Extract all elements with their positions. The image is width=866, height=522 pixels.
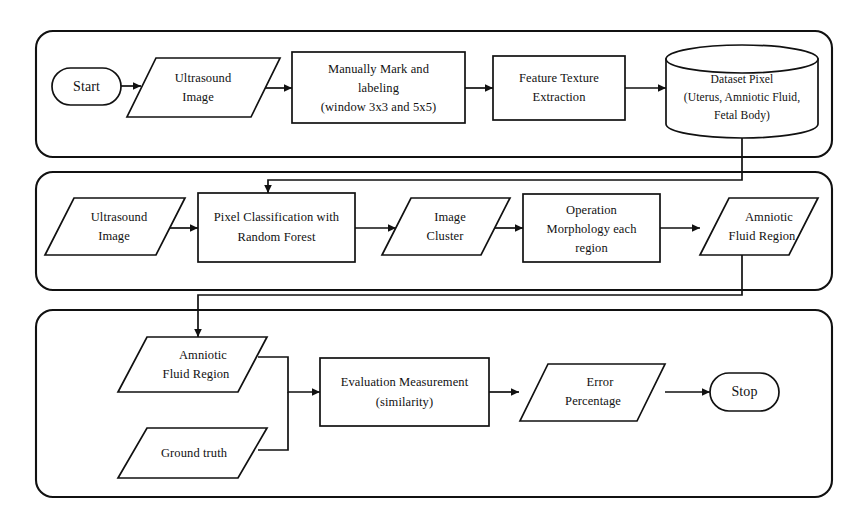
node-error-percentage[interactable]: Error Percentage (520, 364, 665, 421)
node-ground-truth-label: Ground truth (161, 446, 228, 460)
flowchart-canvas: Start Ultrasound Image Manually Mark and… (0, 0, 866, 522)
connector-ultrasound-1-to-manual-mark (264, 84, 292, 92)
connector-ground-truth-to-evaluation (258, 392, 288, 450)
connector-feature-texture-to-dataset-pixel (625, 84, 666, 92)
node-amniotic-fluid-region-2-label-line-2: Fluid Region (163, 367, 230, 381)
node-ultrasound-image-1-label-line-1: Ultrasound (175, 71, 232, 85)
node-amniotic-fluid-region-1-label-line-2: Fluid Region (729, 229, 796, 243)
node-image-cluster[interactable]: Image Cluster (382, 198, 510, 255)
node-amniotic-fluid-region-1-label-line-1: Amniotic (745, 210, 793, 224)
node-feature-texture-label-line-1: Feature Texture (519, 71, 599, 85)
flowchart-svg: Start Ultrasound Image Manually Mark and… (0, 0, 866, 522)
node-evaluation-measurement-label-line-1: Evaluation Measurement (341, 375, 469, 389)
connector-start-to-ultrasound-1 (121, 82, 141, 90)
connector-amniotic-2-to-evaluation (258, 357, 320, 396)
connector-morphology-to-amniotic-1 (660, 224, 700, 232)
node-error-percentage-label-line-2: Percentage (565, 394, 621, 408)
node-stop-label: Stop (731, 384, 757, 399)
connector-error-pct-to-stop (665, 388, 710, 396)
node-error-percentage-label-line-1: Error (587, 375, 615, 389)
node-operation-morphology[interactable]: Operation Morphology each region (523, 194, 660, 262)
node-evaluation-measurement[interactable]: Evaluation Measurement (similarity) (320, 358, 489, 426)
connector-amniotic-1-to-amniotic-2 (194, 255, 742, 337)
connector-manual-mark-to-feature-texture (465, 84, 493, 92)
node-amniotic-fluid-region-1[interactable]: Amniotic Fluid Region (700, 198, 818, 255)
node-start-label: Start (73, 79, 100, 94)
connector-evaluation-to-error-pct (489, 388, 519, 396)
connector-pixel-classify-to-image-cluster (355, 224, 396, 232)
node-image-cluster-label-line-1: Image (434, 210, 466, 224)
node-ultrasound-image-1-label-line-2: Image (182, 90, 214, 104)
node-pixel-classification-label-line-1: Pixel Classification with (214, 210, 340, 224)
phase-2-nodes: Ultrasound Image Pixel Classification wi… (45, 193, 818, 262)
node-manually-mark-label-line-3: (window 3x3 and 5x5) (321, 100, 437, 114)
node-stop[interactable]: Stop (710, 373, 779, 411)
node-feature-texture-label-line-2: Extraction (532, 90, 586, 104)
node-operation-morphology-label-line-2: Morphology each (546, 222, 637, 236)
node-amniotic-fluid-region-2[interactable]: Amniotic Fluid Region (118, 337, 267, 392)
node-ultrasound-image-2[interactable]: Ultrasound Image (45, 198, 185, 255)
node-ultrasound-image-2-label-line-1: Ultrasound (91, 210, 148, 224)
node-dataset-pixel-label-line-2: (Uterus, Amniotic Fluid, (684, 91, 800, 104)
node-feature-texture-extraction[interactable]: Feature Texture Extraction (493, 56, 625, 120)
connector-ultrasound-2-to-pixel-classify (170, 224, 198, 232)
node-start[interactable]: Start (52, 68, 121, 105)
node-operation-morphology-label-line-1: Operation (566, 203, 618, 217)
node-manually-mark-label-line-2: labeling (358, 81, 400, 95)
node-pixel-classification-random-forest[interactable]: Pixel Classification with Random Forest (198, 193, 355, 262)
phase-1-nodes: Start Ultrasound Image Manually Mark and… (52, 45, 818, 138)
node-operation-morphology-label-line-3: region (575, 241, 608, 255)
phase-3-nodes: Amniotic Fluid Region Ground truth Evalu… (118, 337, 779, 478)
node-pixel-classification-label-line-2: Random Forest (237, 230, 315, 244)
node-dataset-pixel-label-line-1: Dataset Pixel (711, 73, 774, 86)
node-evaluation-measurement-label-line-2: (similarity) (376, 395, 433, 409)
node-amniotic-fluid-region-2-label-line-1: Amniotic (179, 348, 227, 362)
node-ultrasound-image-1[interactable]: Ultrasound Image (127, 58, 280, 117)
connector-dataset-pixel-to-pixel-classify (264, 135, 742, 193)
node-ultrasound-image-2-label-line-2: Image (98, 229, 130, 243)
node-manually-mark-and-labeling[interactable]: Manually Mark and labeling (window 3x3 a… (292, 52, 465, 123)
node-ground-truth[interactable]: Ground truth (118, 428, 267, 478)
connector-image-cluster-to-morphology (495, 224, 523, 232)
node-manually-mark-label-line-1: Manually Mark and (328, 62, 430, 76)
node-dataset-pixel-database[interactable]: Dataset Pixel (Uterus, Amniotic Fluid, F… (666, 45, 818, 138)
node-dataset-pixel-label-line-3: Fetal Body) (714, 109, 770, 122)
node-image-cluster-label-line-2: Cluster (427, 229, 465, 243)
